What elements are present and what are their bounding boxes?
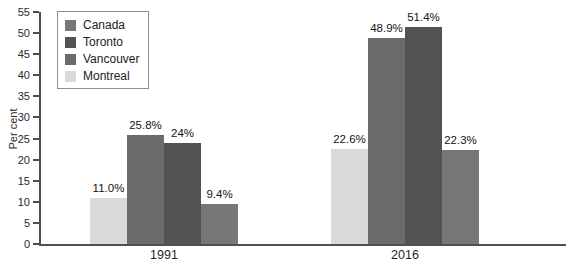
bar-canada-2016 [442,150,479,244]
y-tick-mark [33,180,39,182]
y-tick-label: 0 [4,239,30,250]
y-tick-mark [33,116,39,118]
legend-swatch-vancouver [65,54,76,65]
bar-value-canada-1991: 9.4% [188,188,252,201]
y-tick-label: 35 [4,91,30,102]
y-tick-label: 40 [4,70,30,81]
bar-value-toronto-1991: 24% [151,127,215,140]
legend-label-toronto: Toronto [83,36,123,48]
y-tick-label: 45 [4,49,30,60]
category-label-2016: 2016 [365,248,445,262]
legend-item-montreal: Montreal [65,70,140,82]
legend-item-vancouver: Vancouver [65,53,140,65]
y-tick-mark [33,74,39,76]
y-tick-mark [33,11,39,13]
legend-swatch-canada [65,20,76,31]
y-tick-label: 20 [4,155,30,166]
legend-item-toronto: Toronto [65,36,140,48]
legend-swatch-montreal [65,71,76,82]
legend-label-montreal: Montreal [83,70,130,82]
y-tick-label: 50 [4,28,30,39]
bar-value-canada-2016: 22.3% [429,134,493,147]
legend-label-vancouver: Vancouver [83,53,139,65]
y-axis-line [39,12,41,244]
bar-value-montreal-2016: 22.6% [318,133,382,146]
legend-swatch-toronto [65,37,76,48]
bar-canada-1991 [201,204,238,244]
y-tick-mark [33,159,39,161]
y-tick-mark [33,53,39,55]
y-tick-mark [33,138,39,140]
y-tick-label: 10 [4,197,30,208]
y-tick-mark [33,201,39,203]
legend-item-canada: Canada [65,19,140,31]
y-tick-label: 15 [4,176,30,187]
legend: CanadaTorontoVancouverMontreal [57,11,149,89]
y-tick-mark [33,32,39,34]
bar-chart: Per cent 0510152025303540455055 11.0%25.… [0,0,570,268]
legend-label-canada: Canada [83,19,125,31]
bar-montreal-1991 [90,198,127,244]
y-tick-label: 5 [4,218,30,229]
bar-value-toronto-2016: 51.4% [392,11,456,24]
y-tick-mark [33,95,39,97]
y-tick-label: 30 [4,112,30,123]
y-tick-mark [33,222,39,224]
bar-value-montreal-1991: 11.0% [77,182,141,195]
y-tick-mark [33,243,39,245]
bar-montreal-2016 [331,149,368,244]
category-label-1991: 1991 [124,248,204,262]
y-tick-label: 25 [4,134,30,145]
x-axis-line [39,244,566,246]
y-tick-label: 55 [4,7,30,18]
